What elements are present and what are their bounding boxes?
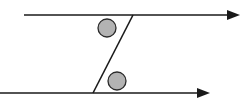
bottom-arrowhead-icon bbox=[197, 88, 210, 98]
angle-marker-top bbox=[98, 19, 116, 37]
angle-marker-bottom bbox=[108, 72, 126, 90]
parallel-lines-diagram bbox=[0, 0, 251, 100]
top-arrowhead-icon bbox=[227, 10, 240, 20]
